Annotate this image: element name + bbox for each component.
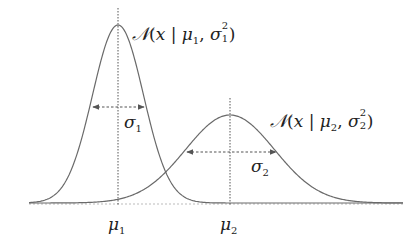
mu-subscript: 2 — [231, 225, 237, 236]
comma: , — [337, 111, 348, 131]
var-mu: μ — [182, 24, 193, 44]
var-x: x — [294, 111, 304, 131]
sigma-2-label: σ2 — [251, 158, 269, 178]
paren-close: ) — [229, 24, 236, 44]
sigma-sup-sub: 21 — [222, 30, 229, 40]
comma: , — [199, 24, 210, 44]
var-x: x — [156, 24, 166, 44]
sigma-subscript: 1 — [222, 34, 228, 44]
var-sigma: σ — [348, 111, 360, 131]
mean-2-label: μ2 — [220, 216, 237, 236]
sigma-symbol: σ — [124, 112, 136, 132]
sigma-subscript: 1 — [136, 123, 142, 134]
mu-symbol: μ — [220, 214, 231, 234]
formula-label-1: 𝒩(x | μ1, σ21) — [132, 25, 235, 46]
mu-subscript: 1 — [119, 225, 125, 236]
sigma-superscript: 2 — [222, 21, 228, 31]
sigma-1-label: σ1 — [124, 114, 142, 134]
given-bar: | — [165, 24, 182, 44]
mu-symbol: μ — [108, 214, 119, 234]
var-sigma: σ — [210, 24, 222, 44]
var-mu: μ — [320, 111, 331, 131]
normal-dist-symbol: 𝒩 — [132, 23, 149, 44]
sigma-sup-sub: 22 — [360, 117, 367, 127]
sigma-symbol: σ — [251, 156, 263, 176]
sigma-superscript: 2 — [360, 108, 366, 118]
sigma-subscript: 2 — [360, 121, 366, 131]
mean-1-label: μ1 — [108, 216, 125, 236]
paren-open: ( — [287, 111, 294, 131]
sigma-subscript: 2 — [263, 167, 269, 178]
given-bar: | — [303, 111, 320, 131]
paren-close: ) — [367, 111, 374, 131]
formula-label-2: 𝒩(x | μ2, σ22) — [270, 112, 373, 133]
normal-dist-symbol: 𝒩 — [270, 110, 287, 131]
paren-open: ( — [149, 24, 156, 44]
